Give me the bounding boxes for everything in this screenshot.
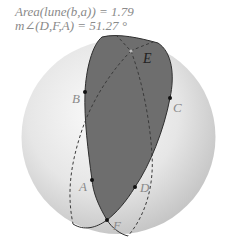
point-E-marker[interactable] [129,49,132,52]
point-B[interactable] [83,90,87,94]
spherical-geometry-canvas: E B C A D F Area(lune(b,a)) = 1.79 m∠(D,… [0,0,231,252]
label-D: D [139,180,150,195]
point-A[interactable] [90,178,94,182]
point-D[interactable] [133,185,137,189]
lune-area-measurement: Area(lune(b,a)) = 1.79 [15,5,134,19]
point-C[interactable] [168,96,172,100]
sphere-diagram: E B C A D F [0,0,231,252]
label-E: E [142,51,152,66]
label-C: C [173,100,182,115]
point-F[interactable] [105,218,109,222]
label-A: A [78,179,87,194]
label-B: B [72,91,80,106]
label-F: F [112,218,122,233]
angle-measurement: m∠(D,F,A) = 51.27 ° [15,19,127,33]
